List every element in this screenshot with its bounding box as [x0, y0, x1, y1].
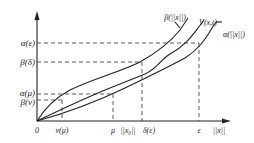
- alpha-curve: [37, 22, 216, 121]
- y-axis-arrow-icon: [35, 11, 40, 20]
- y-axis-labels: α(ε) β(δ) α(μ) β(ν): [19, 38, 35, 107]
- label-delta-eps: δ(ε): [143, 126, 156, 135]
- label-x-axis: ||x||: [213, 126, 225, 135]
- label-x0: ||x₀||: [120, 126, 135, 135]
- x-axis-arrow-icon: [222, 119, 231, 124]
- label-beta-curve: β(||x||): [163, 13, 186, 22]
- curves: [37, 18, 222, 121]
- beta-curve: [37, 18, 188, 121]
- x-axis-labels: 0 ν(μ) μ ||x₀|| δ(ε) ε ||x||: [35, 126, 225, 135]
- label-nu-mu: ν(μ): [56, 126, 69, 135]
- label-alpha-eps: α(ε): [21, 38, 35, 48]
- label-V-curve: V(x,t): [199, 18, 217, 27]
- label-beta-delta: β(δ): [19, 57, 35, 67]
- label-alpha-curve: α(||x||): [223, 30, 245, 39]
- label-mu: μ: [110, 126, 115, 135]
- beta-label-leader: [175, 22, 180, 28]
- label-eps: ε: [197, 126, 201, 135]
- comparison-function-diagram: α(ε) β(δ) α(μ) β(ν) 0 ν(μ) μ ||x₀|| δ(ε)…: [0, 0, 254, 143]
- label-beta-nu: β(ν): [20, 97, 35, 107]
- axes: [35, 11, 232, 124]
- label-origin: 0: [35, 126, 39, 135]
